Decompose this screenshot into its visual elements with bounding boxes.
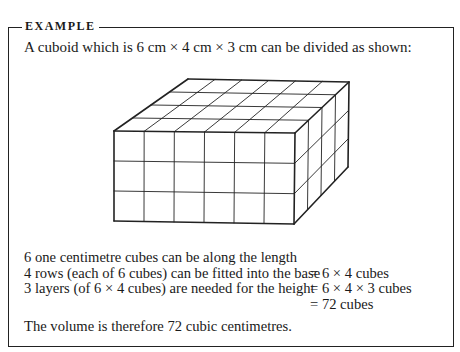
working-rhs: = 6 × 4 × 3 cubes [310,281,412,297]
working-row-2: 4 rows (each of 6 cubes) can be fitted i… [24,266,412,282]
working-lhs: 4 rows (each of 6 cubes) can be fitted i… [24,266,310,282]
working-row-1: 6 one centimetre cubes can be along the … [24,250,412,266]
working-lhs [24,297,310,313]
working-lines: 6 one centimetre cubes can be along the … [24,250,412,312]
working-row-3: 3 layers (of 6 × 4 cubes) are needed for… [24,281,412,297]
working-rhs: = 6 × 4 cubes [310,266,389,282]
working-lhs: 6 one centimetre cubes can be along the … [24,250,310,266]
working-rhs: = 72 cubes [310,297,373,313]
working-row-4: = 72 cubes [24,297,412,313]
conclusion-text: The volume is therefore 72 cubic centime… [24,318,292,334]
working-lhs: 3 layers (of 6 × 4 cubes) are needed for… [24,281,310,297]
